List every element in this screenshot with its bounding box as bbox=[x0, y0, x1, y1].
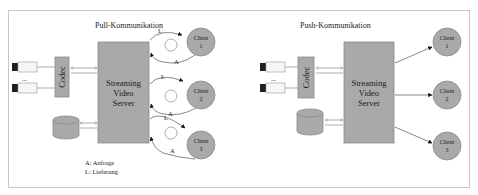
pull-client-3: Client 3 bbox=[187, 131, 215, 159]
pull-codec-label: Codec bbox=[57, 66, 67, 88]
arc-label-delivery: L bbox=[161, 73, 165, 80]
cycle-icon bbox=[165, 39, 177, 51]
arc-label-request: A bbox=[174, 58, 179, 65]
cycle-icon bbox=[165, 127, 177, 139]
push-client-2: Client 2 bbox=[433, 81, 461, 109]
arc-label-request: A bbox=[170, 147, 175, 154]
database-icon bbox=[53, 116, 79, 139]
arc-label-request: A bbox=[168, 110, 173, 117]
arc-label-delivery: L bbox=[164, 114, 168, 121]
push-client-1: Client 1 bbox=[433, 28, 461, 56]
svg-text:2: 2 bbox=[446, 96, 449, 102]
svg-text:Client: Client bbox=[194, 88, 209, 94]
pull-client-2: Client 2 bbox=[187, 81, 215, 109]
camera-ellipsis: ... bbox=[22, 75, 27, 82]
svg-text:3: 3 bbox=[446, 147, 449, 153]
pull-server-line3: Server bbox=[112, 98, 134, 108]
svg-text:Client: Client bbox=[194, 35, 209, 41]
push-server-line3: Server bbox=[358, 98, 380, 108]
legend-delivery: L: Lieferung bbox=[85, 168, 119, 175]
database-icon bbox=[297, 109, 323, 135]
camera-ellipsis: ... bbox=[271, 75, 276, 82]
svg-text:Client: Client bbox=[440, 35, 455, 41]
pull-server-line1: Streaming bbox=[106, 78, 142, 88]
svg-text:Client: Client bbox=[440, 139, 455, 145]
pull-server-line2: Video bbox=[113, 88, 133, 98]
push-title: Push-Kommunikation bbox=[300, 21, 371, 30]
svg-text:Client: Client bbox=[194, 138, 209, 144]
svg-text:1: 1 bbox=[446, 43, 449, 49]
pull-client-1: Client 1 bbox=[187, 28, 215, 56]
diagram-frame bbox=[9, 11, 470, 188]
svg-text:Client: Client bbox=[440, 88, 455, 94]
svg-text:2: 2 bbox=[200, 96, 203, 102]
legend-request: A: Anfrage bbox=[85, 159, 114, 166]
streaming-diagram: Pull-Kommunikation ... Codec bbox=[0, 0, 478, 195]
svg-text:3: 3 bbox=[200, 146, 203, 152]
svg-text:1: 1 bbox=[200, 43, 203, 49]
cycle-icon bbox=[165, 90, 177, 102]
push-client-3: Client 3 bbox=[433, 132, 461, 160]
arc-label-delivery: L bbox=[158, 27, 162, 34]
push-server-line2: Video bbox=[359, 88, 379, 98]
pull-title: Pull-Kommunikation bbox=[95, 21, 163, 30]
push-server-line1: Streaming bbox=[352, 78, 388, 88]
push-codec-label: Codec bbox=[301, 66, 311, 88]
